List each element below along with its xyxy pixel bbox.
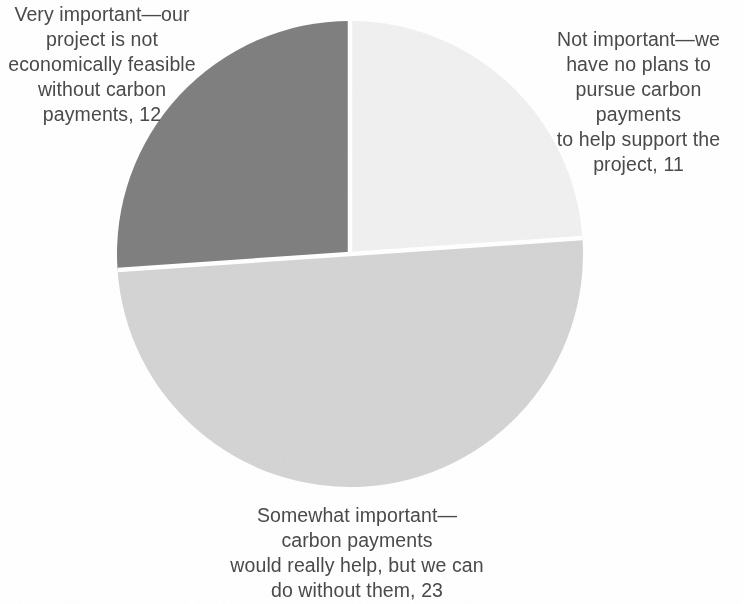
pie-label-not-important: Not important—we have no plans to pursue…: [533, 27, 744, 177]
pie-label-very-important: Very important—our project is not econom…: [0, 2, 206, 127]
pie-label-somewhat-important: Somewhat important— carbon payments woul…: [192, 503, 522, 603]
pie-chart-figure: Very important—our project is not econom…: [0, 0, 744, 604]
pie-slice-somewhat-important: [118, 238, 583, 487]
